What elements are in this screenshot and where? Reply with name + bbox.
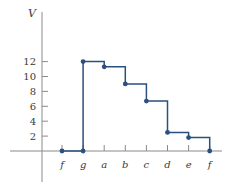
y-axis-title: V <box>28 7 37 20</box>
axes <box>10 12 222 182</box>
y-tick-label: 10 <box>23 71 36 82</box>
x-tick-label: a <box>101 159 107 170</box>
y-tick-label: 4 <box>30 116 36 127</box>
y-axis-ticks: 24681012 <box>23 56 48 142</box>
x-tick-label: f <box>207 159 214 170</box>
y-tick-label: 2 <box>30 131 36 142</box>
data-point <box>165 130 170 135</box>
data-point <box>123 82 128 87</box>
x-tick-label: c <box>144 159 150 170</box>
step-chart: 24681012 fgabcdef V <box>0 0 247 190</box>
data-point <box>81 59 86 64</box>
data-point <box>186 135 191 140</box>
x-tick-label: g <box>80 159 86 170</box>
data-point <box>60 149 65 154</box>
data-point <box>81 149 86 154</box>
x-tick-label: b <box>122 159 128 170</box>
data-point <box>207 149 212 154</box>
y-tick-label: 12 <box>23 56 36 67</box>
y-tick-label: 8 <box>30 86 36 97</box>
x-tick-label: d <box>164 159 170 170</box>
x-tick-label: f <box>59 159 66 170</box>
y-tick-label: 6 <box>30 101 36 112</box>
x-tick-label: e <box>186 159 192 170</box>
data-series <box>60 59 213 153</box>
data-point <box>102 64 107 69</box>
data-point <box>144 99 149 104</box>
